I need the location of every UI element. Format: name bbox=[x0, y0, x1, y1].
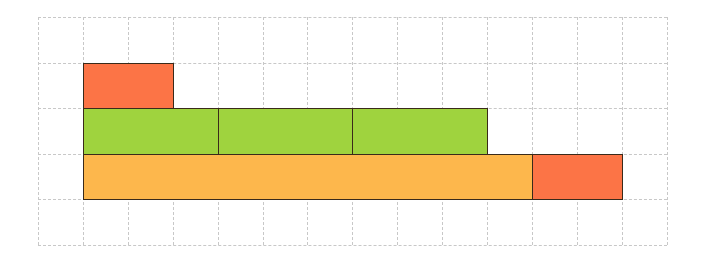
grid-line-horizontal bbox=[38, 17, 667, 18]
grid-line-vertical bbox=[667, 17, 668, 245]
grid-line-vertical bbox=[532, 17, 533, 245]
grid-line-horizontal bbox=[38, 245, 667, 246]
green-block-2 bbox=[218, 108, 354, 155]
grid-line-vertical bbox=[622, 17, 623, 245]
red-block-top bbox=[83, 63, 174, 110]
grid-diagram bbox=[38, 17, 667, 245]
green-block-3 bbox=[352, 108, 488, 155]
green-block-1 bbox=[83, 108, 219, 155]
red-block-right bbox=[532, 154, 623, 201]
grid-line-vertical bbox=[38, 17, 39, 245]
grid-line-vertical bbox=[577, 17, 578, 245]
orange-block bbox=[83, 154, 533, 201]
